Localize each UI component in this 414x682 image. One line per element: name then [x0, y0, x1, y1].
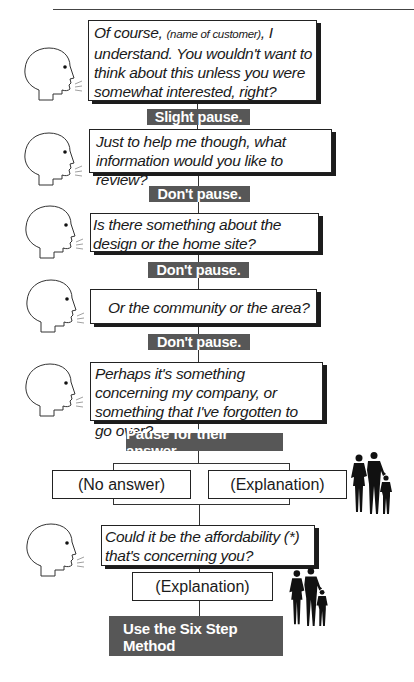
transition-label: Pause for their answer.: [126, 433, 283, 451]
script-box-step-3: Is there something about the design or t…: [90, 213, 319, 252]
script-text: Is there something about the design or t…: [93, 216, 281, 252]
script-text: Or the community or the area?: [108, 299, 310, 316]
final-action-line-1: Use the Six Step Method: [123, 620, 283, 654]
family-silhouette-icon: [349, 452, 395, 514]
top-rule: [53, 9, 414, 10]
customer-name-placeholder: (name of customer): [167, 28, 261, 40]
transition-label: Slight pause.: [147, 109, 250, 125]
branch-bracket-top: [113, 463, 290, 464]
speaking-head-icon: [23, 202, 83, 262]
script-text: Could it be the affordability (*) that's…: [105, 528, 299, 564]
speaking-head-icon: [22, 129, 82, 189]
branch-explanation: (Explanation): [208, 470, 347, 499]
script-box-affordability: Could it be the affordability (*) that's…: [101, 525, 315, 566]
transition-label: Don't pause.: [148, 262, 249, 278]
followup-explanation: (Explanation): [132, 572, 273, 601]
script-box-step-4: Or the community or the area?: [90, 289, 317, 324]
speaking-head-icon: [22, 44, 82, 104]
transition-label: Don't pause.: [148, 334, 250, 350]
script-text: Just to help me though, what information…: [96, 133, 286, 188]
branch-bracket-bottom: [113, 504, 290, 505]
transition-label: Don't pause.: [149, 186, 250, 202]
final-action-line-2: to handle objections.: [123, 654, 283, 671]
connector-line: [199, 504, 200, 526]
script-text: Of course,: [94, 24, 167, 41]
speaking-head-icon: [24, 520, 84, 580]
script-box-step-1: Of course, (name of customer), I underst…: [88, 20, 317, 101]
connector-line: [199, 600, 200, 616]
speaking-head-icon: [24, 276, 84, 336]
branch-no-answer: (No answer): [52, 470, 191, 499]
final-action-box: Use the Six Step Method to handle object…: [109, 616, 283, 656]
family-silhouette-icon: [287, 568, 331, 626]
script-box-step-2: Just to help me though, what information…: [89, 129, 332, 173]
script-box-step-5: Perhaps it's something concerning my com…: [90, 362, 323, 421]
speaking-head-icon: [23, 360, 83, 420]
